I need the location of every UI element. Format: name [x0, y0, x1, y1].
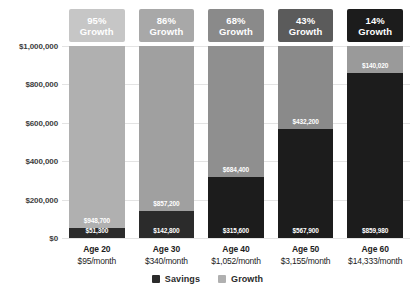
- bar-segment-savings[interactable]: $567,900: [278, 129, 334, 238]
- growth-badge: 95%Growth: [69, 9, 125, 42]
- legend-item[interactable]: Savings: [152, 274, 200, 284]
- y-axis-tick-label: $200,000: [25, 195, 58, 204]
- growth-badge-percent: 86%: [157, 15, 176, 26]
- growth-badge-suffix: Growth: [149, 26, 183, 37]
- gridline: [62, 238, 410, 239]
- bar-segment-growth[interactable]: $140,020: [347, 46, 403, 73]
- x-axis-age-label: Age 50: [271, 244, 341, 254]
- bar-value-label-growth: $140,020: [362, 62, 388, 69]
- growth-badge-row: 95%Growth86%Growth68%Growth43%Growth14%G…: [62, 9, 410, 42]
- x-axis-monthly-label: $3,155/month: [271, 256, 341, 266]
- x-axis-label-group: Age 30$340/month: [132, 240, 202, 270]
- growth-badge: 14%Growth: [347, 9, 403, 42]
- bar-value-label-savings: $142,800: [153, 227, 179, 234]
- stacked-bar-chart: 95%Growth86%Growth68%Growth43%Growth14%G…: [0, 0, 415, 293]
- bar-value-label-growth: $857,200: [153, 200, 179, 207]
- y-axis-tick-labels: $1,000,000$800,000$600,000$400,000$200,0…: [0, 46, 58, 238]
- y-axis-tick-label: $400,000: [25, 157, 58, 166]
- x-axis-label-group: Age 50$3,155/month: [271, 240, 341, 270]
- bar-value-label-growth: $684,400: [223, 166, 249, 173]
- legend-swatch-icon: [152, 275, 160, 283]
- bars-layer: $948,700$51,300$857,200$142,800$684,400$…: [62, 46, 410, 238]
- y-axis-tick-label: $800,000: [25, 80, 58, 89]
- bar-segment-savings[interactable]: $315,600: [208, 177, 264, 238]
- growth-badge-percent: 68%: [226, 15, 245, 26]
- bar-stack: $857,200$142,800: [139, 46, 195, 238]
- growth-badge-percent: 43%: [296, 15, 315, 26]
- bar-stack: $948,700$51,300: [69, 46, 125, 238]
- growth-badge-suffix: Growth: [219, 26, 253, 37]
- x-axis-age-label: Age 20: [62, 244, 132, 254]
- bar-segment-growth[interactable]: $432,200: [278, 46, 334, 129]
- x-axis-label-group: Age 20$95/month: [62, 240, 132, 270]
- bar-stack: $140,020$859,980: [347, 46, 403, 238]
- bar-segment-growth[interactable]: $684,400: [208, 46, 264, 177]
- bar-value-label-savings: $859,980: [362, 227, 388, 234]
- x-axis-monthly-label: $1,052/month: [201, 256, 271, 266]
- bar-segment-growth[interactable]: $948,700: [69, 46, 125, 228]
- legend-label: Savings: [165, 274, 200, 284]
- bar-column[interactable]: $684,400$315,600: [201, 46, 271, 238]
- x-axis-category-labels: Age 20$95/monthAge 30$340/monthAge 40$1,…: [62, 240, 410, 270]
- bar-value-label-growth: $948,700: [84, 217, 110, 224]
- bar-column[interactable]: $948,700$51,300: [62, 46, 132, 238]
- legend-item[interactable]: Growth: [218, 274, 263, 284]
- bar-stack: $432,200$567,900: [278, 46, 334, 238]
- legend-swatch-icon: [218, 275, 226, 283]
- bar-segment-growth[interactable]: $857,200: [139, 46, 195, 211]
- x-axis-monthly-label: $340/month: [132, 256, 202, 266]
- bar-column[interactable]: $432,200$567,900: [271, 46, 341, 238]
- y-axis-tick-label: $600,000: [25, 118, 58, 127]
- growth-badge: 43%Growth: [278, 9, 334, 42]
- growth-badge: 68%Growth: [208, 9, 264, 42]
- x-axis-label-group: Age 40$1,052/month: [201, 240, 271, 270]
- x-axis-label-group: Age 60$14,333/month: [340, 240, 410, 270]
- bar-column[interactable]: $857,200$142,800: [132, 46, 202, 238]
- chart-legend: SavingsGrowth: [0, 274, 415, 284]
- bar-stack: $684,400$315,600: [208, 46, 264, 238]
- bar-value-label-savings: $51,300: [85, 227, 108, 234]
- growth-badge-percent: 95%: [87, 15, 106, 26]
- plot-area: $948,700$51,300$857,200$142,800$684,400$…: [62, 46, 410, 238]
- growth-badge-percent: 14%: [366, 15, 385, 26]
- y-axis-tick-label: $1,000,000: [19, 42, 58, 51]
- bar-segment-savings[interactable]: $142,800: [139, 211, 195, 238]
- bar-column[interactable]: $140,020$859,980: [340, 46, 410, 238]
- growth-badge-suffix: Growth: [289, 26, 323, 37]
- bar-value-label-savings: $567,900: [292, 227, 318, 234]
- x-axis-monthly-label: $14,333/month: [340, 256, 410, 266]
- x-axis-age-label: Age 60: [340, 244, 410, 254]
- bar-segment-savings[interactable]: $859,980: [347, 73, 403, 238]
- bar-value-label-savings: $315,600: [223, 227, 249, 234]
- bar-value-label-growth: $432,200: [292, 118, 318, 125]
- x-axis-age-label: Age 40: [201, 244, 271, 254]
- bar-segment-savings[interactable]: $51,300: [69, 228, 125, 238]
- y-axis-tick-label: $0: [49, 234, 58, 243]
- growth-badge-suffix: Growth: [358, 26, 392, 37]
- growth-badge: 86%Growth: [139, 9, 195, 42]
- x-axis-age-label: Age 30: [132, 244, 202, 254]
- x-axis-monthly-label: $95/month: [62, 256, 132, 266]
- legend-label: Growth: [231, 274, 263, 284]
- growth-badge-suffix: Growth: [80, 26, 114, 37]
